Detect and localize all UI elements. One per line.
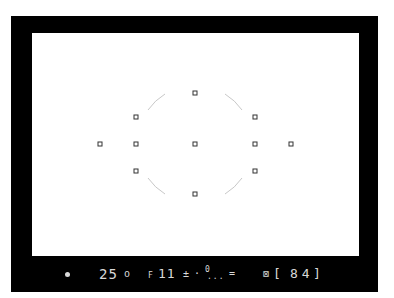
focus-point-center <box>193 142 197 146</box>
arc-bottom-left <box>148 178 165 194</box>
focus-confirm-indicator <box>65 272 70 277</box>
frame-bracket-open: [ <box>273 262 282 286</box>
aperture-value: 11 <box>158 262 176 286</box>
separator: · <box>194 262 201 286</box>
frame-bracket-close: ] <box>313 262 322 286</box>
arc-bottom-right <box>225 178 242 194</box>
frame-count: 84 <box>290 262 314 286</box>
bracket-icon: ⊠ <box>263 262 270 286</box>
aperture-prefix: F <box>148 264 154 288</box>
focus-point-far-right <box>289 142 293 146</box>
lcd-readout: 25 o F 11 ± · 0 ... = ⊠ [ 84 ] <box>11 262 378 286</box>
meter-scale: ... <box>207 265 224 289</box>
exposure-comp-icon: ± <box>183 262 190 286</box>
focus-point-mid-left <box>134 142 138 146</box>
focus-point-far-left <box>98 142 102 146</box>
focus-point-upper-right <box>253 115 257 119</box>
focus-point-bottom <box>193 192 197 196</box>
focus-point-upper-left <box>134 115 138 119</box>
arc-top-right <box>225 94 242 110</box>
focus-point-lower-right <box>253 169 257 173</box>
focus-points <box>98 91 293 196</box>
focus-point-top <box>193 91 197 95</box>
focus-overlay <box>0 0 394 298</box>
shutter-speed: 25 <box>99 262 118 286</box>
arc-top-left <box>148 94 165 110</box>
shutter-suffix: o <box>124 262 131 286</box>
focus-point-mid-right <box>253 142 257 146</box>
flash-icon: = <box>229 262 236 286</box>
metering-circle <box>148 94 242 194</box>
focus-point-lower-left <box>134 169 138 173</box>
